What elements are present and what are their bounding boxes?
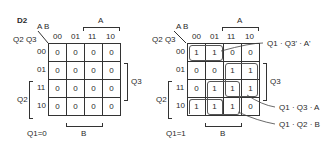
group-label: Q1 · Q3' · A': [267, 40, 311, 48]
b-range-bracket: [205, 123, 242, 127]
b-range-label: B: [220, 130, 225, 138]
q3-range-bracket: [263, 63, 267, 101]
q3-range-label: Q3: [270, 78, 281, 86]
q2-range-label: Q2: [156, 96, 167, 104]
group-label: Q1 · Q2 · B: [279, 121, 320, 129]
q2-range-bracket: [168, 81, 172, 119]
group-label: Q1 · Q3 · A: [279, 104, 319, 112]
map-caption: Q1=1: [166, 130, 186, 138]
